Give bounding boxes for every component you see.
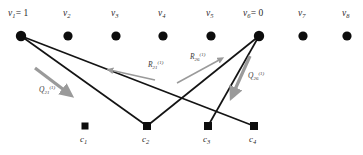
edge-v6-c3	[208, 36, 259, 126]
variable-node-label-v5: v5	[206, 8, 214, 19]
message-label-q-left: Q21(1)	[39, 85, 55, 95]
edge-v1-c4	[21, 36, 254, 126]
variable-node-label-v2: v2	[63, 8, 71, 19]
variable-node-v1	[16, 31, 26, 41]
variable-node-label-v7: v7	[298, 8, 306, 19]
variable-node-v5	[206, 31, 215, 40]
variable-node-v7	[298, 31, 307, 40]
message-label-r-right: R26(1)	[190, 52, 205, 62]
edge-v6-c2	[147, 36, 259, 126]
variable-node-label-v6: v6= 0	[243, 8, 263, 19]
check-node-c3	[204, 122, 212, 130]
tanner-graph-figure: v1= 1 v2 v3 v4 v5 v6= 0 v7 v8 c1 c2 c3 c…	[0, 0, 363, 155]
variable-node-v4	[158, 31, 167, 40]
variable-node-v6	[254, 31, 264, 41]
variable-node-v2	[63, 31, 72, 40]
variable-node-label-v3: v3	[111, 8, 119, 19]
variable-node-label-v1: v1= 1	[8, 8, 28, 19]
check-node-label-c4: c4	[249, 134, 256, 145]
message-arrow-group	[35, 56, 250, 94]
check-node-label-c3: c3	[203, 134, 210, 145]
message-label-q-right: Q26(1)	[248, 71, 264, 81]
check-node-label-c2: c2	[142, 134, 149, 145]
check-node-label-c1: c1	[80, 134, 87, 145]
check-node-c4	[250, 122, 258, 130]
variable-node-v8	[342, 31, 351, 40]
edge-group	[21, 36, 259, 126]
check-node-c2	[143, 122, 151, 130]
check-node-group	[82, 122, 259, 130]
message-label-r-left: R21(1)	[148, 60, 163, 70]
variable-node-group	[16, 31, 352, 41]
edge-v1-c2	[21, 36, 147, 126]
check-node-c1	[82, 123, 89, 130]
variable-node-label-v4: v4	[158, 8, 166, 19]
variable-node-v3	[111, 31, 120, 40]
graph-canvas	[0, 0, 363, 155]
variable-node-label-v8: v8	[342, 8, 350, 19]
